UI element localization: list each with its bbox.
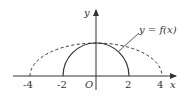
curve-label: y = f(x) <box>138 24 177 35</box>
tick-label-4: 4 <box>157 79 163 90</box>
tick-label-2: 2 <box>125 79 131 90</box>
x-axis-label: x <box>170 79 176 90</box>
origin-label: O <box>85 79 93 90</box>
tick-label-neg2: -2 <box>57 79 67 90</box>
function-graph: y = f(x) y x O -4 -2 2 4 <box>0 0 184 96</box>
label-leader-line <box>119 33 139 51</box>
tick-label-neg4: -4 <box>23 79 33 90</box>
y-axis-label: y <box>83 7 90 18</box>
